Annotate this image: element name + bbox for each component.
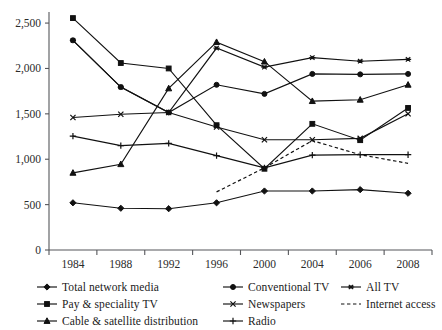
marker-circle	[262, 91, 267, 96]
marker-triangle	[405, 82, 411, 88]
x-tick-label: 1992	[157, 258, 180, 270]
plot-area: 05001,0001,5002,0002,500 198419881992199…	[0, 0, 442, 272]
legend-swatch	[36, 281, 58, 293]
marker-plus	[309, 152, 315, 158]
marker-square	[166, 66, 171, 71]
x-axis-ticks: 19841988199219962000200420062008	[49, 250, 432, 270]
series-line	[217, 141, 409, 192]
legend-item-label: Cable & satellite distribution	[62, 315, 198, 327]
series-newspapers	[70, 110, 410, 142]
legend-item-label: Total network media	[62, 281, 159, 293]
marker-asterisk-core	[72, 39, 74, 41]
marker-diamond	[166, 206, 172, 212]
marker-plus	[230, 317, 236, 323]
marker-square	[406, 106, 411, 111]
marker-x	[405, 111, 410, 116]
legend-item-label: Pay & speciality TV	[62, 298, 158, 310]
marker-asterisk-core	[407, 58, 409, 60]
x-tick-label: 1988	[109, 258, 132, 270]
marker-diamond	[357, 187, 363, 193]
legend-item-conventional-tv[interactable]: Conventional TV	[222, 281, 340, 293]
marker-diamond	[70, 200, 76, 206]
y-tick-label: 0	[35, 244, 41, 256]
chart-canvas: 05001,0001,5002,0002,500 198419881992199…	[0, 0, 442, 272]
series-line	[73, 190, 408, 209]
legend-item-internet-access[interactable]: Internet access	[340, 298, 436, 310]
y-tick-label: 2,000	[15, 62, 41, 75]
marker-plus	[118, 142, 124, 148]
x-tick-label: 2000	[253, 258, 276, 270]
legend-item-newspapers[interactable]: Newspapers	[222, 298, 340, 310]
marker-diamond	[118, 205, 124, 211]
marker-asterisk-core	[311, 56, 313, 58]
legend-row: Pay & speciality TVNewspapersInternet ac…	[0, 295, 442, 312]
legend-swatch	[340, 298, 362, 310]
y-tick-label: 2,500	[15, 17, 41, 30]
legend-row: Cable & satellite distributionRadio	[0, 312, 442, 329]
series-internet-access	[217, 141, 409, 192]
legend-item-all-tv[interactable]: All TV	[340, 281, 399, 293]
legend-item-total-network-media[interactable]: Total network media	[36, 281, 222, 293]
marker-plus	[213, 152, 219, 158]
marker-square	[118, 61, 123, 66]
series-pay-speciality-tv	[71, 16, 411, 171]
legend-item-cable-satellite-distribution[interactable]: Cable & satellite distribution	[36, 315, 222, 327]
y-tick-label: 1,500	[15, 108, 41, 121]
legend-item-label: Newspapers	[248, 298, 305, 310]
series-conventional-tv	[70, 38, 410, 115]
legend-item-pay-speciality-tv[interactable]: Pay & speciality TV	[36, 298, 222, 310]
legend-item-label: Conventional TV	[248, 281, 329, 293]
marker-plus	[165, 140, 171, 146]
marker-plus	[405, 151, 411, 157]
marker-circle	[310, 71, 315, 76]
legend-item-radio[interactable]: Radio	[222, 315, 340, 327]
legend-swatch	[222, 315, 244, 327]
marker-square	[310, 121, 315, 126]
marker-asterisk-core	[263, 66, 265, 68]
marker-asterisk-core	[215, 47, 217, 49]
legend-swatch	[36, 315, 58, 327]
x-tick-label: 2008	[397, 258, 420, 270]
legend-item-label: Radio	[248, 315, 276, 327]
y-tick-label: 500	[24, 199, 42, 211]
legend-swatch	[222, 298, 244, 310]
marker-square	[71, 16, 76, 21]
data-series-group	[70, 16, 412, 212]
marker-plus	[70, 133, 76, 139]
marker-circle	[406, 71, 411, 76]
marker-asterisk-core	[359, 60, 361, 62]
y-tick-label: 1,000	[15, 153, 41, 166]
marker-diamond	[309, 188, 315, 194]
legend-item-label: Internet access	[366, 298, 436, 310]
marker-circle	[231, 284, 236, 289]
line-chart-figure: 05001,0001,5002,0002,500 198419881992199…	[0, 0, 442, 330]
x-tick-label: 1984	[61, 258, 84, 270]
marker-square	[45, 301, 50, 306]
chart-legend: Total network mediaConventional TVAll TV…	[0, 274, 442, 330]
marker-triangle	[214, 39, 220, 45]
marker-diamond	[213, 200, 219, 206]
marker-diamond	[405, 190, 411, 196]
marker-plus	[357, 151, 363, 157]
x-tick-label: 2004	[301, 258, 324, 270]
legend-swatch	[222, 281, 244, 293]
x-tick-label: 1996	[205, 258, 228, 270]
marker-asterisk-core	[350, 285, 352, 287]
legend-swatch	[36, 298, 58, 310]
legend-item-label: All TV	[366, 281, 399, 293]
series-total-network-media	[70, 187, 411, 212]
marker-asterisk-core	[120, 86, 122, 88]
marker-diamond	[261, 188, 267, 194]
x-tick-label: 2006	[349, 258, 372, 270]
y-axis-ticks: 05001,0001,5002,0002,500	[15, 17, 49, 256]
legend-row: Total network mediaConventional TVAll TV	[0, 278, 442, 295]
legend-swatch	[340, 281, 362, 293]
marker-circle	[214, 82, 219, 87]
marker-circle	[358, 72, 363, 77]
marker-diamond	[44, 283, 50, 289]
